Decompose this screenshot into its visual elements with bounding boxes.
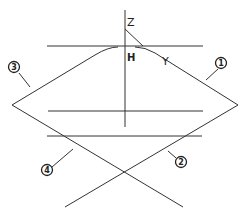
left-upper-curve [12,47,118,105]
callout-leader-3 [19,73,30,87]
left-lower-diagonal [12,105,183,207]
svg-text:3: 3 [11,63,17,72]
origin-label: H [127,52,135,63]
svg-text:4: 4 [44,166,50,175]
z-slant-line [125,29,143,46]
geometry-diagram: Z H Y 1 2 3 4 [0,0,247,219]
right-upper-diagonal [135,47,238,105]
callout-leader-1 [206,69,218,80]
y-label: Y [161,55,169,68]
callout-leader-2 [168,151,176,158]
callout-2: 2 [176,157,187,168]
svg-text:1: 1 [218,59,224,68]
callout-1: 1 [216,58,227,69]
callout-leader-4 [52,149,73,167]
callout-4: 4 [42,165,53,176]
right-lower-diagonal [65,105,238,207]
svg-text:2: 2 [178,158,184,167]
callout-3: 3 [9,62,20,73]
z-label: Z [127,16,135,29]
